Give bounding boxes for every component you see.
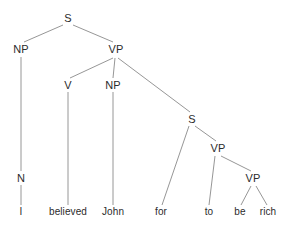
tree-node-s-root: S	[64, 13, 72, 24]
tree-edge	[113, 58, 115, 78]
tree-edges-layer	[0, 0, 289, 228]
tree-leaf-believed: believed	[49, 207, 87, 217]
tree-edge	[256, 186, 267, 205]
tree-edge	[195, 126, 216, 141]
tree-node-vp-main: VP	[108, 44, 123, 55]
tree-edge	[73, 25, 113, 42]
tree-edge	[118, 58, 190, 112]
tree-edge	[221, 156, 251, 171]
tree-node-vp-inner: VP	[245, 173, 260, 184]
tree-node-np-subj: NP	[13, 44, 29, 55]
tree-leaf-rich: rich	[260, 207, 277, 217]
tree-node-np-obj: NP	[105, 80, 121, 91]
tree-node-s-embed: S	[188, 114, 196, 125]
tree-leaf-i: I	[20, 207, 23, 217]
tree-leaf-be: be	[234, 207, 245, 217]
tree-edge	[24, 25, 63, 42]
syntax-tree-figure: SNPVPVNPSVPVPNIbelievedJohnfortoberich	[0, 0, 289, 228]
tree-edge	[70, 58, 113, 78]
tree-leaf-john: John	[102, 207, 124, 217]
tree-node-n-subj: N	[17, 173, 25, 184]
tree-leaf-to: to	[205, 207, 214, 217]
tree-node-v-main: V	[64, 80, 72, 91]
tree-leaf-for: for	[155, 207, 167, 217]
tree-node-vp-embed: VP	[210, 143, 225, 154]
tree-edge	[162, 126, 189, 205]
tree-edge	[209, 156, 215, 205]
tree-edge	[241, 186, 251, 205]
